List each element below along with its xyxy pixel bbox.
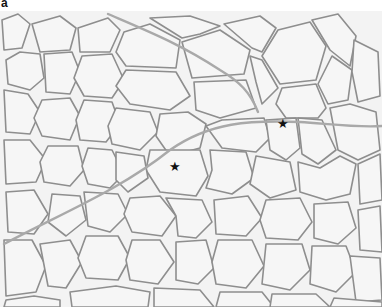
cell-network <box>0 11 382 307</box>
star-marker: ★ <box>169 160 181 173</box>
muscle-fiber-micrograph: ★ ★ <box>0 11 382 307</box>
panel-label: a <box>1 0 8 10</box>
star-marker: ★ <box>277 117 289 130</box>
